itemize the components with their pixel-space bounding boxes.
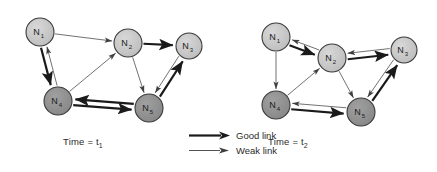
edge-panel-t2-N5-to-N3 — [372, 65, 397, 101]
edge-panel-t2-N5-to-N4 — [292, 103, 346, 107]
legend-label-weak-link: Weak link — [236, 145, 277, 156]
edge-panel-t2-N2-to-N5 — [339, 71, 353, 98]
edge-panel-t1-N1-to-N2 — [55, 34, 112, 41]
edge-panel-t1-N4-to-N2 — [70, 53, 116, 91]
node-panel-t1-N3[interactable]: N3 — [176, 33, 202, 59]
node-label: N — [182, 41, 189, 51]
edge-panel-t1-N4-to-N5 — [73, 105, 131, 109]
good-link-arrow-icon — [188, 130, 232, 141]
node-label: N — [269, 100, 276, 110]
figure-canvas: N1N2N3N4N5N1N2N3N4N5 Time = t1 Time = t2… — [0, 0, 437, 172]
node-panel-t1-N1[interactable]: N1 — [26, 18, 54, 46]
edge-panel-t2-N3-to-N5 — [368, 60, 394, 97]
node-panel-t2-N2[interactable]: N2 — [318, 44, 346, 72]
node-label: N — [33, 27, 40, 37]
node-panel-t2-N5[interactable]: N5 — [347, 98, 375, 126]
edges-layer — [41, 34, 397, 114]
edge-panel-t2-N2-to-N3 — [348, 55, 388, 60]
edge-panel-t2-N4-to-N2 — [287, 68, 319, 95]
legend: Good link Weak link — [188, 128, 298, 158]
legend-item-weak-link: Weak link — [188, 143, 298, 158]
node-panel-t1-N5[interactable]: N5 — [135, 94, 163, 122]
node-label: N — [121, 38, 128, 48]
node-panel-t1-N4[interactable]: N4 — [44, 87, 72, 115]
edge-panel-t1-N5-to-N3 — [160, 61, 183, 96]
edge-panel-t1-N5-to-N4 — [75, 99, 133, 103]
edge-panel-t2-N4-to-N5 — [291, 109, 343, 113]
edge-panel-t1-N1-to-N4 — [41, 48, 51, 85]
node-panel-t2-N4[interactable]: N4 — [262, 91, 290, 119]
edge-panel-t1-N2-to-N3 — [143, 44, 172, 45]
node-label: N — [142, 103, 149, 113]
node-panel-t2-N3[interactable]: N3 — [391, 37, 417, 63]
node-panel-t2-N1[interactable]: N1 — [262, 23, 290, 51]
node-label: N — [269, 32, 276, 42]
nodes-layer: N1N2N3N4N5N1N2N3N4N5 — [26, 18, 417, 126]
node-label: N — [51, 96, 58, 106]
edge-panel-t1-N2-to-N5 — [133, 57, 144, 92]
node-label: N — [325, 53, 332, 63]
node-panel-t1-N2[interactable]: N2 — [114, 29, 142, 57]
edge-panel-t2-N3-to-N2 — [348, 49, 390, 54]
legend-item-good-link: Good link — [188, 128, 298, 143]
node-label: N — [397, 45, 404, 55]
weak-link-arrow-icon — [188, 145, 232, 156]
node-label: N — [354, 107, 361, 117]
caption-time-t1: Time = t1 — [63, 136, 103, 149]
legend-label-good-link: Good link — [236, 130, 276, 141]
